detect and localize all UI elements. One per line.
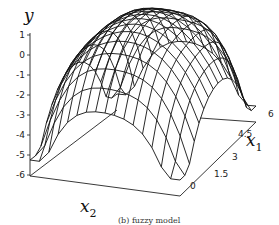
base-plane bbox=[30, 110, 256, 196]
x2-axis-label: x2 bbox=[80, 196, 97, 220]
z-ticks: 10-1-2-3-4-5-6 bbox=[16, 30, 30, 180]
wireframe-mesh bbox=[30, 8, 256, 180]
z-tick-label: 0 bbox=[19, 50, 25, 60]
z-axis-label: y bbox=[23, 5, 34, 25]
figure-caption: (b) fuzzy model bbox=[118, 216, 180, 225]
x1-tick-label: 6 bbox=[268, 109, 274, 119]
base-edge-back-right bbox=[200, 118, 256, 122]
z-tick-label: -3 bbox=[16, 110, 25, 120]
surface-plot: 10-1-2-3-4-5-6 y 01.534.56 x1 x2 bbox=[0, 0, 279, 225]
x1-tick-label: 0 bbox=[190, 181, 196, 191]
base-edge-front bbox=[30, 176, 180, 196]
z-tick-label: -2 bbox=[16, 90, 25, 100]
z-tick-label: -6 bbox=[16, 170, 25, 180]
z-tick-label: -5 bbox=[16, 150, 25, 160]
x1-tick-label: 1.5 bbox=[214, 169, 228, 179]
z-tick-label: -4 bbox=[16, 130, 25, 140]
base-edge-back-left bbox=[30, 110, 117, 176]
z-tick-label: 1 bbox=[19, 30, 25, 40]
x1-tick-label: 3 bbox=[232, 152, 238, 162]
z-tick-label: -1 bbox=[16, 70, 25, 80]
x1-axis-label: x1 bbox=[246, 130, 263, 154]
